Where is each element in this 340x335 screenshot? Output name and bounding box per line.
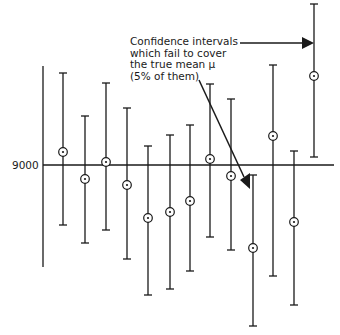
- interval-2: [81, 116, 90, 243]
- interval-3: [102, 83, 111, 230]
- arrow-diagonal-head: [240, 173, 250, 189]
- arrow-diagonal-shaft: [199, 80, 244, 177]
- arrow-right-head: [302, 37, 314, 49]
- sample-mean-dot: [293, 221, 295, 223]
- interval-12: [290, 151, 299, 305]
- sample-mean-dot: [169, 211, 171, 213]
- sample-mean-dot: [84, 178, 86, 180]
- sample-mean-dot: [209, 158, 211, 160]
- axes: [43, 66, 334, 267]
- sample-mean-dot: [252, 247, 254, 249]
- sample-mean-dot: [230, 175, 232, 177]
- sample-mean-dot: [147, 217, 149, 219]
- sample-mean-dot: [272, 135, 274, 137]
- reference-line-label: 9000: [12, 159, 39, 171]
- interval-11: [269, 65, 278, 276]
- sample-mean-dot: [126, 184, 128, 186]
- interval-5: [144, 146, 153, 295]
- interval-6: [166, 135, 175, 289]
- sample-mean-dot: [62, 151, 64, 153]
- interval-8: [206, 84, 215, 237]
- interval-4: [123, 108, 132, 259]
- interval-10: [249, 175, 258, 326]
- sample-mean-dot: [105, 161, 107, 163]
- interval-9: [227, 99, 236, 250]
- sample-mean-dot: [313, 75, 315, 77]
- interval-7: [186, 125, 195, 271]
- annotation-text: Confidence intervals which fail to cover…: [130, 36, 238, 82]
- interval-1: [59, 73, 68, 225]
- sample-mean-dot: [189, 200, 191, 202]
- interval-13: [310, 4, 319, 157]
